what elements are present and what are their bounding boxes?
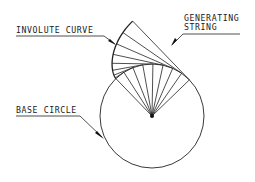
string-line [112,63,153,64]
string-line [133,21,190,80]
generating-string-label-line2: STRING [184,22,217,32]
radial-spokes [116,64,190,116]
label-involute-curve: INVOLUTE CURVE [16,25,116,45]
spoke-line [133,68,152,116]
generating-string-leader [172,34,240,45]
generating-string-lines [112,21,189,80]
label-base-circle: BASE CIRCLE [16,105,104,139]
spoke-line [152,64,153,116]
center-point [150,114,154,118]
string-line [114,68,133,75]
label-generating-string: GENERATING STRING [171,13,240,46]
spoke-line [152,80,189,116]
arrowhead-icon [108,39,116,45]
involute-curve-leader [16,36,115,44]
base-circle-label: BASE CIRCLE [16,105,77,115]
involute-curve-label: INVOLUTE CURVE [16,25,93,35]
base-circle-leader [16,116,102,137]
arrowhead-icon [171,38,177,46]
spoke-line [152,68,173,116]
involute-diagram: INVOLUTE CURVE GENERATING STRING BASE CI… [0,0,255,182]
